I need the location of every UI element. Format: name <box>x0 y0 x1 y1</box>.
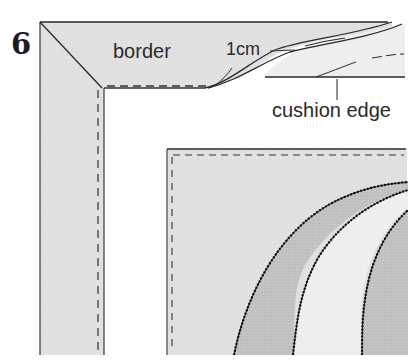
label-1cm: 1cm <box>226 40 260 58</box>
label-border: border <box>113 41 171 61</box>
label-cushion-edge: cushion edge <box>272 100 391 120</box>
diagram-illustration <box>0 0 415 361</box>
sewing-diagram: 6 border 1cm cushion edge <box>0 0 415 361</box>
cushion-panel <box>167 149 408 355</box>
step-number: 6 <box>11 30 31 59</box>
